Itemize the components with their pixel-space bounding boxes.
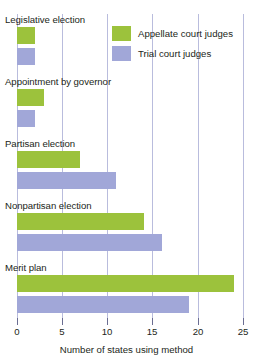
x-tick-label-10: 10 — [102, 326, 113, 337]
x-axis-title: Number of states using method — [0, 344, 253, 355]
x-axis: 0 5 10 15 20 25 — [17, 318, 243, 338]
bar-appointment-by-governor-appellate — [17, 89, 44, 106]
gridline-25 — [243, 14, 244, 318]
x-tick-5 — [62, 318, 63, 325]
x-tick-0 — [17, 318, 18, 325]
x-tick-10 — [107, 318, 108, 325]
x-tick-label-15: 15 — [147, 326, 158, 337]
bar-group-appointment-by-governor: Appointment by governor — [17, 76, 243, 136]
x-tick-label-25: 25 — [238, 326, 249, 337]
category-label-partisan-election: Partisan election — [5, 138, 75, 149]
category-label-legislative-election: Legislative election — [5, 14, 85, 25]
chart-legend: Appellate court judges Trial court judge… — [112, 25, 233, 65]
x-tick-25 — [243, 318, 244, 325]
bar-nonpartisan-election-trial — [17, 234, 162, 251]
legend-label-trial-court-judges: Trial court judges — [138, 48, 211, 59]
x-tick-label-20: 20 — [193, 326, 204, 337]
bar-partisan-election-trial — [17, 172, 116, 189]
bar-legislative-election-trial — [17, 48, 35, 65]
bar-nonpartisan-election-appellate — [17, 213, 144, 230]
bar-group-partisan-election: Partisan election — [17, 138, 243, 198]
bar-legislative-election-appellate — [17, 27, 35, 44]
bar-group-nonpartisan-election: Nonpartisan election — [17, 200, 243, 260]
category-label-appointment-by-governor: Appointment by governor — [5, 76, 111, 87]
x-tick-label-5: 5 — [59, 326, 64, 337]
legend-item-trial-court-judges: Trial court judges — [112, 45, 233, 62]
x-tick-15 — [152, 318, 153, 325]
x-tick-20 — [198, 318, 199, 325]
bar-group-merit-plan: Merit plan — [17, 262, 243, 322]
category-label-merit-plan: Merit plan — [5, 262, 47, 273]
bar-partisan-election-appellate — [17, 151, 80, 168]
legend-swatch-icon-appellate — [112, 26, 131, 41]
x-tick-label-0: 0 — [14, 326, 19, 337]
legend-swatch-icon-trial — [112, 46, 131, 61]
category-label-nonpartisan-election: Nonpartisan election — [5, 200, 91, 211]
bar-appointment-by-governor-trial — [17, 110, 35, 127]
bar-merit-plan-trial — [17, 296, 189, 313]
bar-chart: Legislative election Appointment by gove… — [0, 0, 253, 363]
legend-label-appellate-court-judges: Appellate court judges — [138, 28, 233, 39]
legend-item-appellate-court-judges: Appellate court judges — [112, 25, 233, 42]
bar-merit-plan-appellate — [17, 275, 234, 292]
